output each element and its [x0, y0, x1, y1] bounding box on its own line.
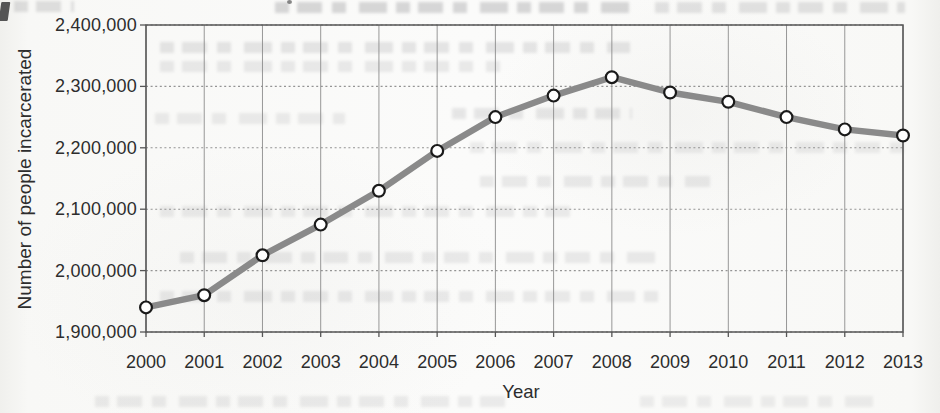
- y-tick-label: 2,000,000: [27, 262, 137, 280]
- data-point-marker: [664, 87, 676, 99]
- data-point-marker: [198, 289, 210, 301]
- y-tick-label: 2,300,000: [27, 77, 137, 95]
- y-tick-label: 1,900,000: [27, 323, 137, 341]
- data-point-marker: [606, 71, 618, 83]
- scanned-book-page: Number of people incarcerated 1,900,0002…: [0, 0, 940, 413]
- data-point-marker: [548, 90, 560, 102]
- data-point-marker: [839, 123, 851, 135]
- data-point-marker: [781, 111, 793, 123]
- data-point-marker: [315, 219, 327, 231]
- x-axis-title: Year: [502, 381, 539, 403]
- plot-border: [146, 25, 903, 332]
- x-tick-label: 2013: [867, 352, 939, 372]
- y-tick-label: 2,400,000: [27, 16, 137, 34]
- y-tick-label: 2,100,000: [27, 200, 137, 218]
- data-point-marker: [373, 185, 385, 197]
- data-point-marker: [257, 249, 269, 261]
- data-point-marker: [431, 145, 443, 157]
- data-point-marker: [490, 111, 502, 123]
- data-point-marker: [722, 96, 734, 108]
- data-point-marker: [897, 130, 909, 142]
- y-tick-label: 2,200,000: [27, 139, 137, 157]
- data-point-marker: [140, 302, 152, 314]
